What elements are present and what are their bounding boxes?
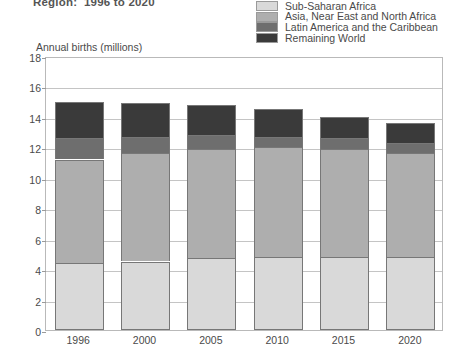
x-axis-labels: 199620002005201020152020 [45,334,443,350]
bar-segment[interactable] [121,137,170,154]
bar-group[interactable] [320,56,369,330]
legend-swatch-icon [256,22,278,32]
bar-segment[interactable] [386,153,435,257]
y-axis-tick-label: 14 [29,113,41,125]
bar-segment[interactable] [386,143,435,154]
x-axis-tick-label: 2005 [199,334,222,346]
bar-segment[interactable] [254,257,303,330]
bar-group[interactable] [187,56,236,330]
bar-segment[interactable] [254,147,303,257]
bar-segment[interactable] [320,138,369,149]
bar-segment[interactable] [254,109,303,136]
bar-segment[interactable] [187,135,236,149]
bar-segment[interactable] [55,263,104,330]
bar-segment[interactable] [121,103,170,136]
bar-segment[interactable] [386,123,435,143]
x-axis-tick-label: 2000 [133,334,156,346]
y-axis-tick-mark [42,332,46,333]
x-axis-tick-label: 2010 [265,334,288,346]
y-axis-tick-label: 6 [35,235,41,247]
chart-title: Region: 1996 to 2020 [33,0,155,8]
y-axis-tick-label: 4 [35,265,41,277]
bar-segment[interactable] [320,257,369,330]
bar-segment[interactable] [55,160,104,264]
legend-swatch-icon [256,12,278,22]
legend-swatch-icon [256,33,278,43]
bar-group[interactable] [386,56,435,330]
bar-segment[interactable] [254,137,303,148]
y-axis-tick-label: 0 [35,326,41,338]
chart-legend: Sub-Saharan Africa Asia, Near East and N… [256,1,438,43]
y-axis-label: Annual births (millions) [36,41,142,53]
bar-segment[interactable] [55,138,104,159]
x-axis-tick-label: 1996 [66,334,89,346]
bar-segment[interactable] [121,262,170,331]
bar-segment[interactable] [55,102,104,139]
legend-swatch-icon [256,1,278,11]
y-axis-tick-label: 12 [29,143,41,155]
y-axis-tick-label: 8 [35,204,41,216]
bar-segment[interactable] [187,258,236,330]
legend-item-remaining-world: Remaining World [256,33,438,44]
y-axis-tick-label: 10 [29,174,41,186]
bar-group[interactable] [121,56,170,330]
bar-segment[interactable] [187,149,236,259]
y-axis-tick-label: 18 [29,52,41,64]
y-axis-tick-label: 2 [35,296,41,308]
bar-group[interactable] [55,56,104,330]
bar-segment[interactable] [187,105,236,135]
legend-item-label: Remaining World [285,33,365,44]
bar-segment[interactable] [320,149,369,257]
x-axis-tick-label: 2020 [398,334,421,346]
x-axis-tick-label: 2015 [332,334,355,346]
bar-segment[interactable] [320,117,369,138]
bar-segment[interactable] [121,153,170,261]
bars-layer [46,58,442,330]
y-axis-tick-label: 16 [29,82,41,94]
bar-segment[interactable] [386,257,435,330]
bar-group[interactable] [254,56,303,330]
plot-area: 024681012141618 [45,57,443,331]
